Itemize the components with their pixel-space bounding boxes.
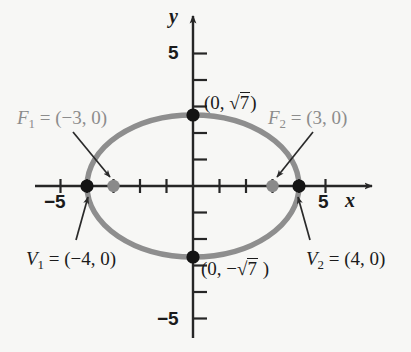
covertex-label-top-radicand: 7 [240,92,251,112]
vertex-label-v1-equation: = (−4, 0) [44,248,116,269]
covertex-label-bottom-prefix: (0, − [201,258,237,279]
covertex-label-bottom-suffix: ) [258,258,269,279]
covertex-label-bottom-radicand: 7 [247,258,258,278]
x-axis-label: x [345,190,355,210]
leader-arrow-v2 [298,197,310,240]
y-tick-label-neg5: −5 [157,309,179,328]
covertex-label-bottom: (0, −√7 ) [201,258,269,278]
radical-icon: √ [237,258,247,279]
ellipse-figure: y x −5 5 5 −5 F1 = (−3, 0) F2 = (3, 0) V… [0,0,411,352]
covertex-point-top [186,108,199,121]
x-tick-label-5: 5 [318,192,329,211]
vertex-label-v2-equation: = (4, 0) [324,248,385,269]
focus-point-f1 [107,180,119,192]
vertex-label-v2: V2 = (4, 0) [306,249,385,272]
covertex-label-top-prefix: (0, [204,92,229,113]
x-tick-label-neg5: −5 [44,192,66,211]
covertex-label-top-suffix: ) [250,92,256,113]
y-axis-label: y [169,6,178,26]
graph-canvas [0,0,411,352]
focus-label-f2: F2 = (3, 0) [268,108,347,131]
vertex-point-v1 [80,179,93,192]
vertex-label-v1-name: V [26,248,38,269]
vertex-label-v1: V1 = (−4, 0) [26,249,116,272]
covertex-point-bottom [186,250,199,263]
focus-label-f2-name: F [268,107,280,128]
y-tick-label-5: 5 [168,43,179,62]
focus-label-f1: F1 = (−3, 0) [17,108,107,131]
vertex-point-v2 [292,179,305,192]
focus-label-f2-equation: = (3, 0) [286,107,347,128]
focus-label-f1-equation: = (−3, 0) [35,107,107,128]
radical-icon: √ [229,92,239,113]
focus-point-f2 [266,180,278,192]
leader-arrow-v1 [76,197,88,240]
covertex-label-top: (0, √7) [204,92,257,112]
vertex-label-v2-name: V [306,248,318,269]
focus-label-f1-name: F [17,107,29,128]
